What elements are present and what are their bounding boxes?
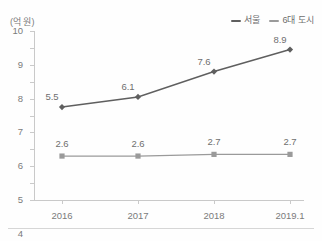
series-line-six-cities	[62, 154, 290, 156]
series-line-seoul	[62, 50, 290, 107]
data-point-marker	[211, 68, 217, 74]
data-label-six-cities-2019.1: 2.7	[283, 137, 296, 147]
data-label-seoul-2019.1: 8.9	[273, 34, 286, 44]
y-tick-label-5: 5	[18, 195, 23, 205]
legend-label-six-cities: 6대 도시	[282, 16, 314, 25]
data-point-marker	[211, 152, 216, 157]
data-label-six-cities-2018: 2.7	[207, 137, 220, 147]
data-point-marker	[135, 153, 140, 158]
x-tick-label-2019.1: 2019.1	[275, 211, 304, 221]
y-tick-label-10: 10	[12, 26, 23, 36]
data-label-seoul-2016: 5.5	[45, 92, 58, 102]
data-label-six-cities-2016: 2.6	[55, 139, 68, 149]
x-tick-label-2017: 2017	[127, 211, 148, 221]
bottom-divider	[8, 228, 314, 229]
series-lines	[34, 31, 304, 201]
y-tick-label-8: 8	[18, 94, 23, 104]
x-tick-label-2018: 2018	[203, 211, 224, 221]
data-point-marker	[135, 94, 141, 100]
data-label-seoul-2017: 6.1	[121, 81, 134, 91]
y-tick-label-4: 4	[18, 229, 23, 239]
data-point-marker	[287, 152, 292, 157]
x-tick-label-2016: 2016	[51, 211, 72, 221]
y-tick-label-6: 6	[18, 161, 23, 171]
data-label-seoul-2018: 7.6	[197, 56, 210, 66]
chart-legend: 서울 6대 도시	[231, 16, 314, 25]
legend-swatch-six-cities	[269, 20, 279, 22]
legend-item-seoul: 서울	[231, 16, 260, 25]
data-label-six-cities-2017: 2.6	[131, 139, 144, 149]
y-tick-label-9: 9	[18, 60, 23, 70]
plot-area: 012345678910 2016201720182019.1 5.56.17.…	[34, 31, 304, 201]
legend-swatch-seoul	[231, 20, 241, 22]
data-point-marker	[59, 104, 65, 110]
y-tick-label-7: 7	[18, 128, 23, 138]
data-point-marker	[59, 153, 64, 158]
legend-label-seoul: 서울	[244, 16, 260, 25]
data-point-marker	[287, 46, 293, 52]
legend-item-six-cities: 6대 도시	[269, 16, 314, 25]
chart-card: (억 원) 서울 6대 도시 012345678910 201620172018…	[0, 0, 322, 241]
